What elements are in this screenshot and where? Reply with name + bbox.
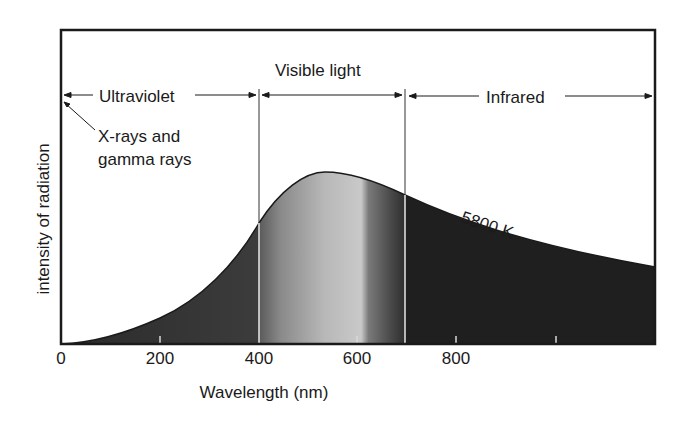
tick-label-400: 400: [245, 349, 273, 368]
tick-label-600: 600: [343, 349, 371, 368]
visible-fill: [259, 160, 405, 344]
infrared-label: Infrared: [486, 88, 545, 107]
ultraviolet-fill: [61, 160, 259, 344]
xrays-label-line2: gamma rays: [98, 150, 192, 169]
x-axis-label: Wavelength (nm): [200, 383, 329, 402]
ultraviolet-label: Ultraviolet: [99, 87, 175, 106]
tick-label-0: 0: [56, 349, 65, 368]
y-axis-label: intensity of radiation: [34, 143, 53, 294]
spectrum-fill: [61, 160, 655, 344]
xrays-label-line1: X-rays and: [98, 127, 180, 146]
tick-label-800: 800: [442, 349, 470, 368]
infrared-fill: [405, 160, 655, 344]
visible-light-label: Visible light: [275, 61, 361, 80]
blackbody-spectrum-chart: Ultraviolet Visible light Infrared X-ray…: [0, 0, 684, 424]
tick-label-200: 200: [146, 349, 174, 368]
